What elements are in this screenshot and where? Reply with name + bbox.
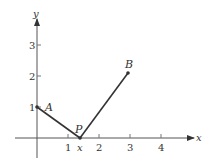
y-tick-label-1: 1 [29,102,35,113]
point-A [35,105,39,109]
segment-PB [80,73,128,138]
y-tick-label-3: 3 [29,40,35,51]
point-P-label: P [74,123,83,136]
y-ticks [37,45,41,107]
x-axis-label: x [196,132,202,143]
point-B-label: B [124,58,133,71]
coordinate-plane: 1 2 3 4 1 2 3 x y A P x B [0,0,208,165]
point-P [78,136,82,140]
x-tick-label-1: 1 [65,142,71,153]
segment-AP [37,107,80,138]
point-B [126,71,130,75]
point-P-sublabel: x [77,142,83,153]
x-tick-label-3: 3 [127,142,133,153]
y-tick-label-2: 2 [29,71,35,82]
point-A-label: A [44,101,53,114]
y-axis-label: y [32,8,39,19]
x-tick-label-2: 2 [96,142,102,153]
x-tick-label-4: 4 [158,142,164,153]
diagram: 1 2 3 4 1 2 3 x y A P x B [0,0,208,165]
